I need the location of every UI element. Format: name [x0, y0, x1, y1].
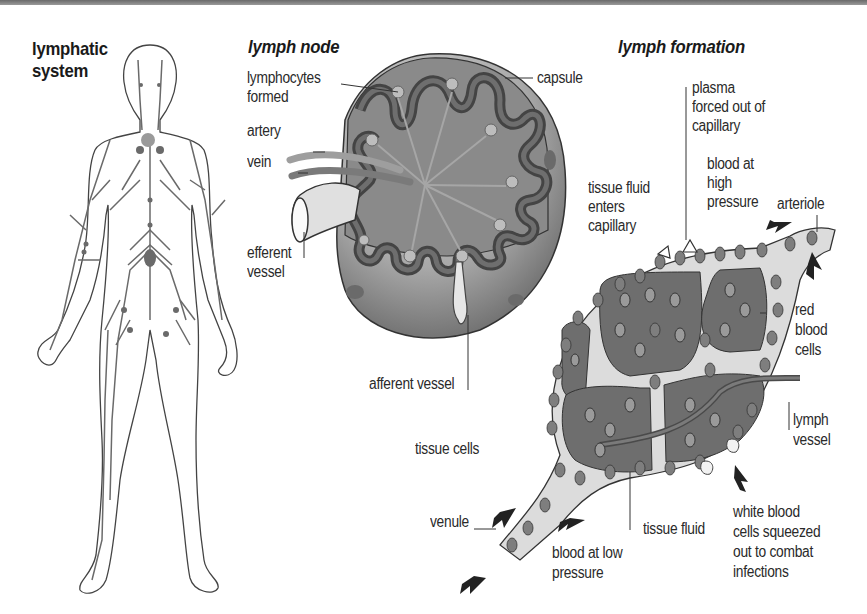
- label-lymph-vessel-line1: lymph: [793, 410, 828, 429]
- label-blood-low-line2: pressure: [552, 563, 603, 582]
- label-tissue-fluid: tissue fluid: [643, 519, 705, 538]
- label-tissue-fluid-enters-line3: capillary: [588, 216, 636, 235]
- label-plasma-line3: capillary: [692, 116, 740, 135]
- label-venule: venule: [430, 512, 469, 531]
- label-red-blood-line3: cells: [795, 340, 821, 359]
- lymphatic-system-title-line2: system: [32, 60, 88, 82]
- label-artery: artery: [247, 121, 281, 140]
- label-wbc-line4: infections: [733, 562, 789, 581]
- label-blood-high-line3: pressure: [707, 192, 758, 211]
- label-wbc-line2: cells squeezed: [733, 522, 820, 541]
- label-tissue-fluid-enters-line1: tissue fluid: [588, 178, 650, 197]
- label-lymphocytes-line1: lymphocytes: [247, 68, 321, 87]
- label-blood-high-line2: high: [707, 173, 732, 192]
- label-tissue-cells: tissue cells: [415, 439, 479, 458]
- lymph-node-illustration: [290, 54, 566, 338]
- label-wbc-line3: out to combat: [733, 542, 813, 561]
- label-blood-high-line1: blood at: [707, 154, 754, 173]
- lymphatic-system-title-line1: lymphatic: [32, 38, 108, 60]
- label-vein: vein: [247, 152, 271, 171]
- label-efferent-line2: vessel: [247, 262, 284, 281]
- label-plasma-line1: plasma: [692, 78, 735, 97]
- lymph-node-title: lymph node: [248, 36, 339, 58]
- label-red-blood-line2: blood: [795, 320, 827, 339]
- label-lymph-vessel-line2: vessel: [793, 430, 830, 449]
- label-plasma-line2: forced out of: [692, 97, 765, 116]
- label-arteriole: arteriole: [777, 194, 824, 213]
- label-lymphocytes-line2: formed: [247, 87, 288, 106]
- label-wbc-line1: white blood: [733, 502, 800, 521]
- human-figure-illustration: [38, 45, 237, 593]
- label-efferent-line1: efferent: [247, 243, 291, 262]
- label-capsule: capsule: [537, 68, 583, 87]
- label-red-blood-line1: red: [795, 300, 814, 319]
- label-tissue-fluid-enters-line2: enters: [588, 197, 625, 216]
- lymph-formation-title: lymph formation: [618, 36, 745, 58]
- label-afferent-vessel: afferent vessel: [369, 374, 454, 393]
- label-blood-low-line1: blood at low: [552, 543, 622, 562]
